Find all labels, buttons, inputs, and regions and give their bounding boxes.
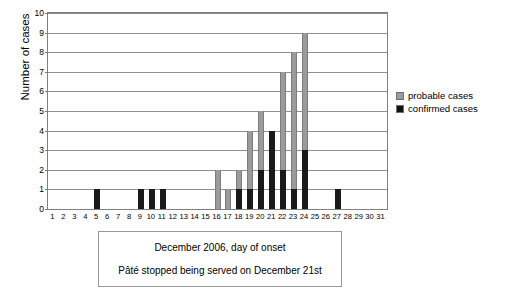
y-tick-label: 9	[39, 28, 44, 38]
bar-segment-confirmed	[94, 189, 100, 209]
x-tick-label: 26	[322, 212, 330, 221]
bar-column	[225, 189, 231, 209]
bar-segment-probable	[258, 111, 264, 170]
x-tick-label: 15	[201, 212, 209, 221]
bar-segment-confirmed	[280, 170, 286, 209]
y-tick-label: 7	[39, 67, 44, 77]
bar-column	[258, 111, 264, 209]
bar-segment-confirmed	[138, 189, 144, 209]
x-tick-label: 2	[61, 212, 65, 221]
y-tick-label: 5	[39, 106, 44, 116]
x-tick-label: 14	[190, 212, 198, 221]
bar-segment-probable	[225, 189, 231, 209]
x-axis-tick-labels: 1234567891011121314151617181920212223242…	[47, 211, 388, 225]
legend-swatch-probable-icon	[396, 92, 404, 100]
bar-segment-confirmed	[269, 131, 275, 209]
bar-column	[94, 189, 100, 209]
bar-column	[160, 189, 166, 209]
x-tick-label: 28	[343, 212, 351, 221]
bar-column	[247, 131, 253, 209]
x-tick-label: 21	[267, 212, 275, 221]
x-tick-label: 13	[179, 212, 187, 221]
x-tick-label: 19	[245, 212, 253, 221]
y-tick-label: 8	[39, 47, 44, 57]
x-tick-label: 25	[311, 212, 319, 221]
x-tick-label: 7	[116, 212, 120, 221]
y-tick-label: 0	[39, 204, 44, 214]
chart-legend: probable cases confirmed cases	[396, 89, 478, 115]
bar-segment-probable	[236, 170, 242, 190]
bar-segment-confirmed	[236, 189, 242, 209]
legend-item-probable: probable cases	[396, 89, 478, 102]
legend-item-confirmed: confirmed cases	[396, 102, 478, 115]
caption-line-note: Pâté stopped being served on December 21…	[118, 265, 321, 276]
x-tick-label: 27	[333, 212, 341, 221]
bar-column	[215, 170, 221, 209]
caption-line-axis-label: December 2006, day of onset	[154, 242, 285, 253]
x-tick-label: 11	[158, 212, 166, 221]
x-tick-label: 9	[138, 212, 142, 221]
caption-box: December 2006, day of onset Pâté stopped…	[98, 231, 342, 287]
bar-column	[138, 189, 144, 209]
plot-area: 012345678910	[47, 12, 388, 210]
bar-column	[149, 189, 155, 209]
y-tick-label: 10	[35, 8, 44, 18]
bar-segment-probable	[302, 33, 308, 151]
x-tick-label: 30	[365, 212, 373, 221]
bar-column	[302, 33, 308, 209]
bar-segment-confirmed	[160, 189, 166, 209]
legend-label-confirmed: confirmed cases	[408, 103, 478, 114]
y-tick-mark	[45, 209, 48, 210]
x-tick-label: 5	[94, 212, 98, 221]
y-tick-label: 3	[39, 145, 44, 155]
x-tick-label: 17	[223, 212, 231, 221]
x-tick-label: 22	[278, 212, 286, 221]
x-tick-label: 31	[376, 212, 384, 221]
legend-swatch-confirmed-icon	[396, 105, 404, 113]
bar-segment-probable	[247, 131, 253, 190]
y-tick-label: 2	[39, 165, 44, 175]
x-tick-label: 3	[72, 212, 76, 221]
x-tick-label: 20	[256, 212, 264, 221]
bar-series-group	[48, 13, 387, 209]
x-tick-label: 1	[50, 212, 54, 221]
bar-segment-probable	[280, 72, 286, 170]
x-tick-label: 16	[212, 212, 220, 221]
bar-segment-confirmed	[149, 189, 155, 209]
bar-column	[280, 72, 286, 209]
bar-segment-probable	[215, 170, 221, 209]
bar-segment-confirmed	[302, 150, 308, 209]
x-tick-label: 10	[147, 212, 155, 221]
bar-column	[236, 170, 242, 209]
y-tick-label: 6	[39, 86, 44, 96]
bar-segment-confirmed	[291, 189, 297, 209]
x-tick-label: 18	[234, 212, 242, 221]
x-tick-label: 4	[83, 212, 87, 221]
legend-label-probable: probable cases	[408, 90, 473, 101]
x-tick-label: 12	[169, 212, 177, 221]
bar-column	[335, 189, 341, 209]
x-tick-label: 23	[289, 212, 297, 221]
bar-column	[269, 131, 275, 209]
y-tick-label: 1	[39, 184, 44, 194]
y-axis-title: Number of cases	[19, 0, 37, 127]
y-tick-label: 4	[39, 126, 44, 136]
x-tick-label: 6	[105, 212, 109, 221]
x-tick-label: 29	[354, 212, 362, 221]
bar-column	[291, 52, 297, 209]
bar-segment-probable	[291, 52, 297, 189]
x-tick-label: 24	[300, 212, 308, 221]
bar-segment-confirmed	[247, 189, 253, 209]
bar-segment-confirmed	[335, 189, 341, 209]
x-tick-label: 8	[127, 212, 131, 221]
bar-segment-confirmed	[258, 170, 264, 209]
chart-figure: Number of cases 012345678910 12345678910…	[0, 0, 506, 298]
